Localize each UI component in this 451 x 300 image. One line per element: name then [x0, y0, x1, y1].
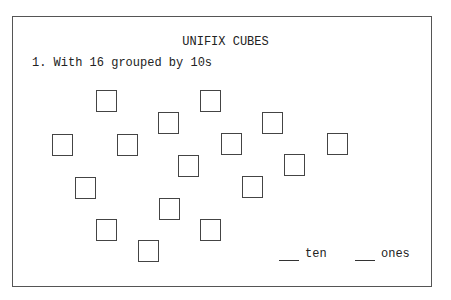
ones-label: ones — [381, 247, 410, 261]
unifix-cube — [75, 177, 96, 199]
tens-label: ten — [305, 247, 327, 261]
unifix-cube — [262, 112, 283, 134]
unifix-cube — [178, 155, 199, 177]
unifix-cube — [159, 198, 180, 220]
unifix-cube — [138, 240, 159, 262]
unifix-cube — [52, 134, 73, 156]
tens-blank[interactable] — [279, 248, 299, 261]
unifix-cube — [158, 112, 179, 134]
ones-answer: ones — [355, 247, 410, 261]
unifix-cube — [200, 219, 221, 241]
unifix-cube — [117, 134, 138, 156]
unifix-cube — [200, 90, 221, 112]
unifix-cube — [96, 219, 117, 241]
question-text: 1. With 16 grouped by 10s — [32, 56, 212, 70]
unifix-cube — [327, 133, 348, 155]
unifix-cube — [242, 176, 263, 198]
worksheet-title: UNIFIX CUBES — [0, 35, 451, 49]
tens-answer: ten — [279, 247, 327, 261]
ones-blank[interactable] — [355, 248, 375, 261]
unifix-cube — [96, 90, 117, 112]
unifix-cube — [284, 154, 305, 176]
unifix-cube — [221, 133, 242, 155]
